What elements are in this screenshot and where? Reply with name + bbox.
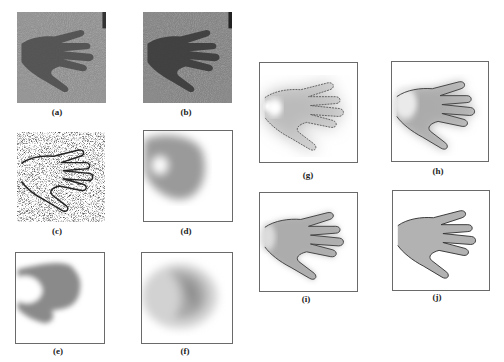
panel-h-image <box>391 61 489 162</box>
panel-i-label: (i) <box>302 294 311 304</box>
panel-c-image <box>17 132 105 222</box>
panel-g-image <box>259 62 358 163</box>
panel-j-image <box>392 190 490 291</box>
panel-c-label: (c) <box>52 226 62 236</box>
panel-a-label: (a) <box>52 107 63 117</box>
panel-j-label: (j) <box>433 292 442 302</box>
panel-e-image <box>15 252 105 344</box>
panel-a-image <box>17 12 106 103</box>
panel-h-label: (h) <box>433 166 444 176</box>
panel-i-image <box>259 192 358 292</box>
panel-f-image <box>141 252 233 344</box>
panel-g-label: (g) <box>303 170 314 180</box>
panel-e-label: (e) <box>53 346 63 356</box>
panel-b-image <box>143 12 232 103</box>
panel-b-label: (b) <box>181 107 192 117</box>
panel-d-image <box>143 130 233 222</box>
panel-d-label: (d) <box>181 226 192 236</box>
panel-f-label: (f) <box>181 346 190 356</box>
